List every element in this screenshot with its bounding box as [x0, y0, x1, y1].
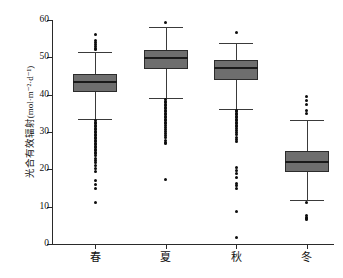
box-iqr: [214, 60, 258, 80]
outlier-point: [94, 187, 97, 190]
boxplot-figure: 光合有效辐射(mol·m⁻²·d⁻¹) 0102030405060 春夏秋冬: [0, 0, 343, 278]
y-tick-label: 60: [40, 15, 50, 25]
whisker-cap-upper: [290, 120, 324, 121]
whisker-cap-upper: [78, 52, 112, 53]
x-tick-label: 夏: [146, 252, 186, 264]
outlier-point: [235, 236, 238, 239]
y-axis-title: 光合有效辐射(mol·m⁻²·d⁻¹): [22, 17, 36, 227]
whisker-upper: [307, 120, 308, 151]
outlier-point: [235, 187, 238, 190]
whisker-upper: [95, 52, 96, 74]
x-tick-mark: [166, 244, 167, 249]
outlier-point: [305, 103, 308, 106]
y-tick-label: 40: [40, 90, 50, 100]
outlier-point: [164, 142, 167, 145]
y-axis-line: [52, 20, 53, 244]
x-tick-mark: [95, 244, 96, 249]
outlier-point: [94, 170, 97, 173]
outlier-point: [94, 201, 97, 204]
outlier-point: [94, 179, 97, 182]
whisker-lower: [236, 80, 237, 109]
whisker-upper: [236, 43, 237, 60]
outlier-point: [235, 172, 238, 175]
outlier-point: [305, 218, 308, 221]
outlier-point: [305, 95, 308, 98]
median-line: [73, 81, 117, 83]
y-tick-label: 50: [40, 52, 50, 62]
outlier-point: [94, 48, 97, 51]
y-axis-unit: (mol·m⁻²·d⁻¹): [25, 66, 35, 118]
whisker-lower: [95, 92, 96, 119]
outlier-point: [305, 99, 308, 102]
whisker-cap-upper: [149, 27, 183, 28]
outlier-point: [235, 176, 238, 179]
outlier-point: [235, 140, 238, 143]
median-line: [214, 67, 258, 69]
outlier-point: [305, 112, 308, 115]
y-tick-label: 0: [44, 239, 49, 249]
median-line: [285, 161, 329, 163]
outlier-point: [94, 33, 97, 36]
x-tick-label: 秋: [216, 252, 256, 264]
box-iqr: [73, 74, 117, 92]
whisker-lower: [166, 69, 167, 98]
x-tick-label: 春: [75, 252, 115, 264]
y-tick-label: 30: [40, 127, 50, 137]
outlier-point: [164, 178, 167, 181]
outlier-point: [164, 21, 167, 24]
box-iqr: [144, 50, 188, 69]
whisker-lower: [307, 172, 308, 200]
outlier-point: [235, 31, 238, 34]
outlier-point: [235, 210, 238, 213]
plot-area: 0102030405060 春夏秋冬: [52, 20, 334, 244]
whisker-cap-upper: [219, 43, 253, 44]
y-tick-label: 10: [40, 202, 50, 212]
x-tick-mark: [236, 244, 237, 249]
outlier-point: [305, 201, 308, 204]
x-tick-mark: [307, 244, 308, 249]
y-axis-title-text: 光合有效辐射: [25, 118, 35, 178]
x-tick-label: 冬: [287, 252, 327, 264]
y-tick-label: 20: [40, 164, 50, 174]
median-line: [144, 57, 188, 59]
whisker-upper: [166, 27, 167, 51]
outlier-point: [94, 183, 97, 186]
